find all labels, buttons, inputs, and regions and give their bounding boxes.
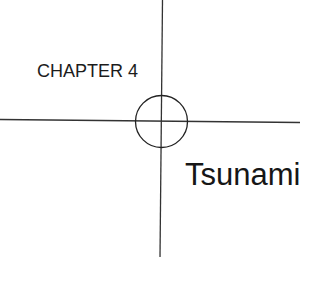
vertical-rule: [160, 0, 163, 257]
horizontal-rule: [0, 120, 300, 123]
crosshair-circle-icon: [0, 0, 327, 288]
chapter-title: Tsunami: [185, 157, 300, 193]
chapter-number-label: CHAPTER 4: [37, 60, 138, 82]
